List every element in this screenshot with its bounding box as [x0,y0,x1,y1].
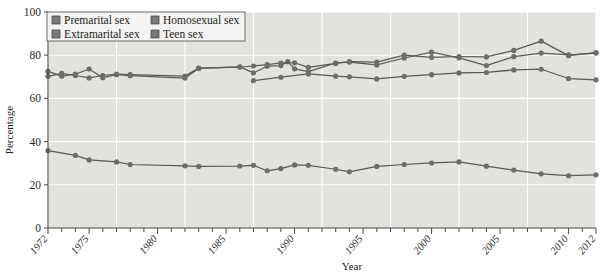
data-point [128,72,133,77]
data-point [566,173,571,178]
x-tick-label: 1990 [274,233,296,257]
legend-swatch [52,30,60,38]
legend-swatch [52,16,60,24]
legend-label: Premarital sex [64,14,130,26]
data-point [456,54,461,59]
x-tick-labels: 1972197519801985199019952000200520102012 [28,233,598,257]
data-point [251,163,256,168]
data-point [59,71,64,76]
data-point [511,67,516,72]
y-tick-label: 0 [35,222,41,234]
data-point [374,76,379,81]
data-point [484,164,489,169]
data-point [306,163,311,168]
data-point [347,74,352,79]
data-point [278,75,283,80]
data-point [511,168,516,173]
data-point [347,169,352,174]
y-tick-labels: 020406080100 [24,6,42,234]
data-point [429,55,434,60]
data-point [429,160,434,165]
data-point [265,62,270,67]
data-point [196,66,201,71]
data-point [484,54,489,59]
data-point [593,50,598,55]
data-point [73,73,78,78]
data-point [484,63,489,68]
data-point [347,59,352,64]
data-point [278,60,283,65]
y-tick-label: 20 [30,179,42,191]
data-point [539,171,544,176]
y-tick-label: 80 [30,49,42,61]
legend-swatch [151,16,159,24]
data-point [511,54,516,59]
y-axis-title: Percentage [3,106,15,154]
data-point [306,71,311,76]
data-point [484,70,489,75]
data-point [196,164,201,169]
data-point [251,70,256,75]
data-point [251,63,256,68]
data-point [402,162,407,167]
data-point [87,75,92,80]
data-point [593,77,598,82]
data-point [114,72,119,77]
data-point [402,53,407,58]
x-tick-label: 2000 [411,233,433,257]
x-tick-label: 2012 [576,233,598,257]
data-point [73,153,78,158]
data-point [87,66,92,71]
legend-label: Homosexual sex [163,14,240,26]
data-point [593,172,598,177]
legend-swatch [151,30,159,38]
data-point [237,163,242,168]
data-point [100,73,105,78]
data-point [456,159,461,164]
data-point [292,60,297,65]
data-point [265,168,270,173]
data-point [456,70,461,75]
chart-container: 1972197519801985199019952000200520102012… [0,0,610,273]
data-point [182,74,187,79]
data-point [306,65,311,70]
data-point [292,162,297,167]
y-tick-label: 40 [30,136,42,148]
x-tick-label: 2010 [548,233,570,257]
data-point [237,64,242,69]
y-tick-label: 100 [24,6,42,18]
data-point [374,60,379,65]
data-point [402,74,407,79]
data-point [128,162,133,167]
x-tick-label: 1980 [137,233,159,257]
legend-label: Extramarital sex [64,28,140,40]
data-point [539,39,544,44]
line-chart: 1972197519801985199019952000200520102012… [0,0,610,273]
y-tick-label: 60 [30,92,42,104]
data-point [429,72,434,77]
data-point [292,66,297,71]
x-tick-label: 1975 [69,233,91,256]
data-point [114,159,119,164]
data-point [87,157,92,162]
data-point [333,61,338,66]
data-point [566,76,571,81]
x-tick-label: 1972 [28,233,50,257]
data-point [539,67,544,72]
data-point [566,53,571,58]
x-axis-title: Year [342,260,363,272]
data-point [251,78,256,83]
data-point [278,166,283,171]
x-tick-label: 1985 [206,233,228,256]
data-point [333,167,338,172]
data-point [333,74,338,79]
legend-label: Teen sex [163,28,204,40]
x-tick-label: 1995 [343,233,365,256]
data-point [429,50,434,55]
x-tick-label: 2005 [480,233,502,256]
data-point [511,48,516,53]
data-point [374,164,379,169]
data-point [182,163,187,168]
data-point [539,50,544,55]
chart-legend: Premarital sexHomosexual sexExtramarital… [47,12,245,41]
